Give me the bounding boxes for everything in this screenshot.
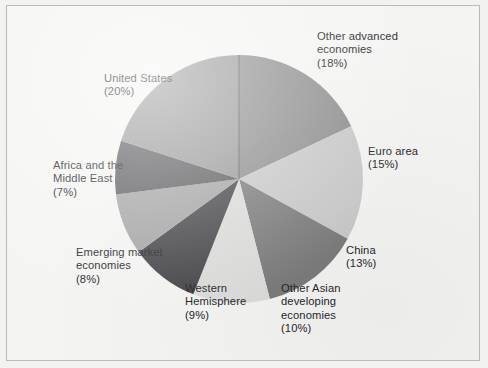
pie-label-other-advanced-economies: Other advanced economies (18%) xyxy=(317,30,398,70)
pie-chart: Other advanced economies (18%) Euro area… xyxy=(7,6,479,360)
pie-label-euro-area: Euro area (15%) xyxy=(368,145,418,172)
figure-frame: Other advanced economies (18%) Euro area… xyxy=(6,5,480,361)
pie-label-united-states: United States (20%) xyxy=(104,72,172,99)
pie-label-emerging-market-economies: Emerging market economies (8%) xyxy=(76,246,163,286)
pie-label-other-asian-developing-economies: Other Asian developing economies (10%) xyxy=(281,282,341,336)
pie-label-africa-and-the-middle-east: Africa and the Middle East (7%) xyxy=(53,159,123,199)
figure-page: Other advanced economies (18%) Euro area… xyxy=(0,0,488,368)
pie-label-western-hemisphere: Western Hemisphere (9%) xyxy=(185,282,246,322)
pie-label-china: China (13%) xyxy=(346,244,376,271)
